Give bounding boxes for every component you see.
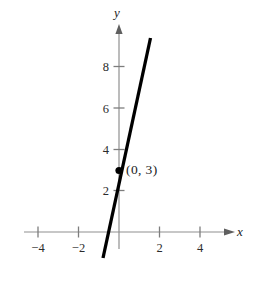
graph-figure: −4 −2 2 4 2 4 6 8 x y (0, 3): [0, 0, 260, 282]
x-tick-label-4: 4: [197, 242, 203, 255]
y-tick-label-4: 4: [95, 144, 109, 157]
x-tick-label-2: 2: [156, 242, 162, 255]
x-tick-label-neg4: −4: [31, 242, 44, 255]
y-tick-label-2: 2: [95, 185, 109, 198]
y-tick-label-8: 8: [95, 61, 109, 74]
x-tick-label-neg2: −2: [72, 242, 85, 255]
y-tick-label-6: 6: [95, 102, 109, 115]
x-axis-label: x: [237, 225, 243, 238]
y-axis-label: y: [114, 6, 120, 19]
x-axis-arrow-icon: [224, 228, 235, 235]
y-axis-arrow-icon: [115, 24, 122, 34]
y-intercept-point-label: (0, 3): [126, 163, 158, 177]
plotted-line: [103, 38, 151, 258]
coordinate-plane-svg: [0, 0, 260, 282]
y-intercept-point-marker: [115, 167, 122, 174]
